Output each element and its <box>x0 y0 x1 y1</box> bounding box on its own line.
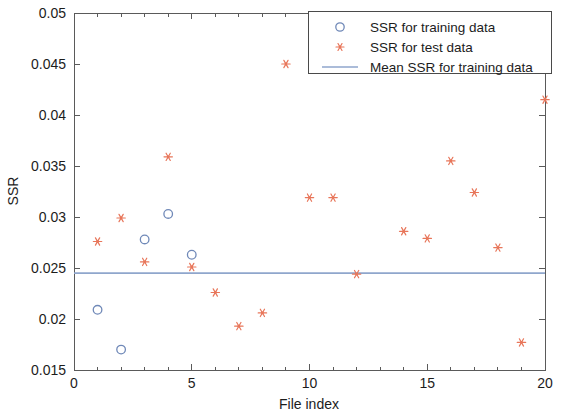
x-tick-label: 15 <box>419 375 435 391</box>
chart-figure: 051015200.0150.020.0250.030.0350.040.045… <box>0 0 562 415</box>
y-tick-label: 0.05 <box>39 5 66 21</box>
x-tick-label: 20 <box>537 375 553 391</box>
legend-item-label: SSR for test data <box>370 40 473 55</box>
y-tick-label: 0.045 <box>31 56 66 72</box>
x-tick-label: 0 <box>70 375 78 391</box>
chart-legend: SSR for training dataSSR for test dataMe… <box>309 12 552 76</box>
legend-item-label: Mean SSR for training data <box>370 60 533 75</box>
y-tick-label: 0.035 <box>31 158 66 174</box>
ssr-scatter-chart: 051015200.0150.020.0250.030.0350.040.045… <box>0 0 562 415</box>
y-tick-label: 0.02 <box>39 311 66 327</box>
x-axis-label: File index <box>279 396 339 412</box>
y-tick-label: 0.04 <box>39 107 66 123</box>
y-tick-label: 0.015 <box>31 362 66 378</box>
y-tick-label: 0.03 <box>39 209 66 225</box>
y-axis-label: SSR <box>5 177 21 206</box>
x-tick-label: 5 <box>188 375 196 391</box>
legend-item-label: SSR for training data <box>370 20 496 35</box>
x-tick-label: 10 <box>302 375 318 391</box>
y-tick-label: 0.025 <box>31 260 66 276</box>
